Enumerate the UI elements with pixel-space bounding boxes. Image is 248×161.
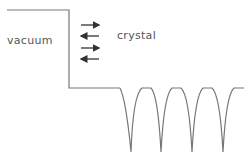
potential-diagram — [0, 0, 248, 161]
vacuum-label: vacuum — [7, 35, 53, 46]
crystal-potential-curve — [120, 88, 244, 152]
crystal-label: crystal — [117, 30, 156, 41]
vacuum-level-line — [7, 10, 120, 88]
